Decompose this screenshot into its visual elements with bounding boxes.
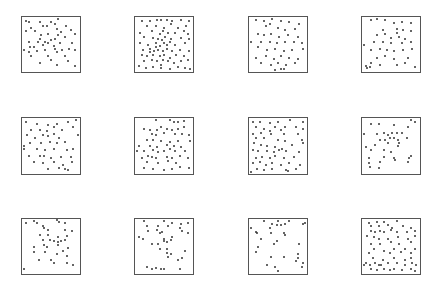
- data-point: [47, 135, 49, 137]
- data-point: [295, 126, 297, 128]
- data-point: [138, 145, 140, 147]
- data-point: [39, 62, 41, 64]
- data-point: [376, 269, 378, 271]
- data-point: [269, 157, 271, 159]
- data-point: [188, 38, 190, 40]
- data-point: [64, 168, 66, 170]
- data-point: [187, 33, 189, 35]
- data-point: [278, 149, 280, 151]
- data-point: [61, 49, 63, 51]
- data-point: [60, 31, 62, 33]
- data-point: [293, 41, 295, 43]
- data-point: [410, 268, 412, 270]
- data-point: [414, 270, 416, 272]
- data-point: [263, 220, 265, 222]
- data-point: [184, 150, 186, 152]
- data-point: [40, 142, 42, 144]
- data-point: [284, 29, 286, 31]
- data-point: [302, 223, 304, 225]
- data-point: [287, 34, 289, 36]
- data-point: [291, 144, 293, 146]
- data-point: [378, 238, 380, 240]
- data-point: [37, 41, 39, 43]
- data-point: [366, 235, 368, 237]
- data-point: [188, 50, 190, 52]
- data-point: [174, 44, 176, 46]
- data-point: [374, 231, 376, 233]
- data-point: [26, 134, 28, 136]
- data-point: [160, 140, 162, 142]
- data-point: [252, 121, 254, 123]
- data-point: [396, 231, 398, 233]
- data-point: [297, 257, 299, 259]
- data-point: [177, 140, 179, 142]
- data-point: [396, 262, 398, 264]
- data-point: [180, 19, 182, 21]
- data-point: [59, 42, 61, 44]
- data-point: [398, 142, 400, 144]
- data-point: [297, 253, 299, 255]
- data-point: [155, 267, 157, 269]
- data-point: [43, 227, 45, 229]
- data-point: [58, 137, 60, 139]
- data-point: [383, 250, 385, 252]
- data-point: [283, 256, 285, 258]
- scatter-panel-11: [248, 218, 308, 275]
- data-point: [157, 49, 159, 51]
- data-point: [38, 259, 40, 261]
- data-point: [56, 253, 58, 255]
- data-point: [411, 262, 413, 264]
- data-point: [276, 224, 278, 226]
- data-point: [280, 224, 282, 226]
- data-point: [369, 264, 371, 266]
- data-point: [171, 222, 173, 224]
- data-point: [68, 48, 70, 50]
- data-point: [288, 162, 290, 164]
- data-point: [159, 248, 161, 250]
- data-point: [266, 49, 268, 51]
- data-point: [407, 126, 409, 128]
- data-point: [161, 231, 163, 233]
- data-point: [60, 156, 62, 158]
- data-point: [142, 49, 144, 51]
- data-point: [391, 132, 393, 134]
- data-point: [139, 32, 141, 34]
- data-point: [390, 151, 392, 153]
- data-point: [155, 42, 157, 44]
- data-point: [155, 25, 157, 27]
- data-point: [414, 235, 416, 237]
- data-point: [29, 142, 31, 144]
- data-point: [280, 164, 282, 166]
- data-point: [146, 139, 148, 141]
- data-point: [414, 248, 416, 250]
- data-point: [163, 220, 165, 222]
- data-point: [139, 42, 141, 44]
- data-point: [56, 28, 58, 30]
- data-point: [277, 139, 279, 141]
- data-point: [253, 142, 255, 144]
- data-point: [53, 148, 55, 150]
- data-point: [149, 20, 151, 22]
- data-point: [179, 268, 181, 270]
- data-point: [167, 225, 169, 227]
- data-point: [370, 123, 372, 125]
- data-point: [293, 156, 295, 158]
- scatter-panel-10: [134, 218, 194, 275]
- data-point: [263, 20, 265, 22]
- data-point: [266, 264, 268, 266]
- data-point: [368, 162, 370, 164]
- data-point: [30, 55, 32, 57]
- data-point: [74, 65, 76, 67]
- data-point: [297, 58, 299, 60]
- data-point: [387, 224, 389, 226]
- data-point: [166, 128, 168, 130]
- data-point: [393, 22, 395, 24]
- data-point: [283, 157, 285, 159]
- data-point: [390, 42, 392, 44]
- data-point: [271, 18, 273, 20]
- data-point: [269, 130, 271, 132]
- data-point: [161, 39, 163, 41]
- data-point: [181, 133, 183, 135]
- data-point: [160, 19, 162, 21]
- data-point: [257, 33, 259, 35]
